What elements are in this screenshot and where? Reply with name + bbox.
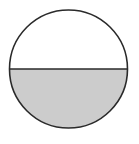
figure-svg: [0, 0, 139, 144]
circle-figure: [0, 0, 139, 144]
